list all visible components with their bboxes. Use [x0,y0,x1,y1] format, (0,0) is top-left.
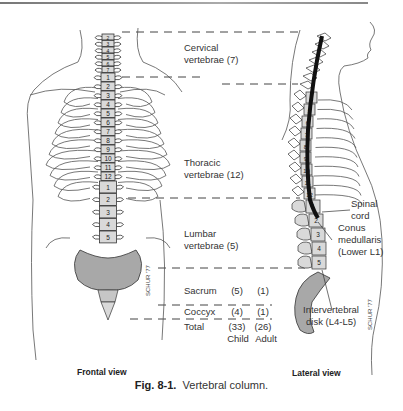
frontal-view-label: Frontal view [77,367,127,377]
leader-spinal-cord [322,210,350,212]
artist-signature-lateral: SCHUR '77 [367,299,373,330]
rib-right [118,87,152,106]
frontal-vertebra-number: 7 [106,128,110,135]
rib-left [50,161,98,180]
rib-right [118,119,161,138]
frontal-vertebra-number: 6 [106,119,110,126]
frontal-vertebra-cervical-5: 5 [95,54,121,61]
frontal-vertebra-number: 12 [104,173,112,180]
frontal-vertebra-lumbar-3: 3 [93,206,124,218]
cervical-label: Cervical vertebrae (7) [184,42,238,66]
frontal-vertebra-thoracic-4: 4 [94,100,122,108]
rib-right [118,150,170,169]
frontal-vertebra-number: 8 [106,137,110,144]
counts-row-sacrum: Sacrum(5)(1) [184,285,276,297]
frontal-vertebra-thoracic-9: 9 [94,145,122,153]
rib-left [58,182,98,201]
counts-row-coccyx: Coccyx(4)(1) [184,306,276,318]
frontal-spine: 23456712345678910111212345 [93,34,124,243]
frontal-vertebra-number: 1 [106,74,110,81]
rib-left [55,119,98,138]
frontal-vertebra-thoracic-12: 12 [94,172,122,180]
frontal-pelvis [46,238,170,320]
frontal-vertebra-number: 1 [106,184,110,191]
conus-medullaris-label: Conus medullaris (Lower L1) [338,222,383,258]
lumbar-label: Lumbar vertebrae (5) [184,228,238,252]
artist-signature-frontal: SCHUR '77 [145,265,151,296]
frontal-vertebra-number: 4 [107,48,110,54]
lateral-view-label: Lateral view [292,368,341,378]
frontal-vertebra-number: 4 [106,221,110,228]
frontal-vertebra-thoracic-10: 10 [94,154,122,162]
lateral-ribcage [313,100,362,205]
lateral-vertebra-lumbar-3: 3 [297,228,325,241]
frontal-vertebra-cervical-2: 2 [95,34,121,41]
lateral-vertebra-lumbar-4: 4 [298,242,326,255]
frontal-vertebra-number: 2 [106,83,110,90]
spinal-cord-label: Spinal cord [351,198,377,222]
caption-label: Fig. 8-1. [135,379,177,391]
frontal-vertebra-number: 3 [106,209,110,216]
lateral-rib [315,157,358,167]
lateral-vertebra-lumbar-5: 5 [298,256,326,269]
lateral-vertebra-cervical [317,33,331,41]
frontal-vertebra-number: 5 [106,234,110,241]
lateral-rib [316,138,356,148]
rib-right [118,171,162,190]
figure-caption: Fig. 8-1. Vertebral column. [0,379,403,391]
rib-right [118,129,164,148]
intervertebral-disk-label: Intervertebral disk (L4-L5) [303,304,359,328]
frontal-vertebra-number: 10 [104,155,112,162]
frontal-vertebra-number: 3 [106,92,110,99]
frontal-vertebra-number: 2 [107,35,110,41]
frontal-vertebra-lumbar-2: 2 [93,194,124,206]
frontal-vertebra-thoracic-5: 5 [94,109,122,117]
frontal-vertebra-thoracic-7: 7 [94,127,122,135]
rib-left [52,129,98,148]
frontal-vertebra-number: 5 [106,110,110,117]
lateral-rib [318,109,354,119]
frontal-vertebra-cervical-7: 7 [95,67,121,74]
lateral-rib [318,100,352,110]
frontal-vertebra-number: 11 [105,164,112,171]
rib-right [118,140,167,159]
counts-column-headers: ChildAdult [224,333,280,345]
frontal-vertebra-thoracic-1: 1 [94,73,122,81]
frontal-vertebra-cervical-4: 4 [95,47,121,54]
thoracic-label: Thoracic vertebrae (12) [184,157,244,181]
caption-text: Vertebral column. [183,379,269,391]
frontal-vertebra-thoracic-6: 6 [94,118,122,126]
rib-right [118,161,166,180]
frontal-vertebra-thoracic-11: 11 [94,163,122,171]
lateral-rib [314,176,360,186]
frontal-vertebra-thoracic-2: 2 [94,82,122,90]
lateral-rib [315,166,360,176]
rib-left [49,140,98,159]
rib-right [118,182,158,201]
frontal-vertebra-number: 5 [107,54,110,60]
frontal-vertebra-number: 7 [107,67,110,73]
rib-left [54,171,98,190]
lateral-spine: 45678910111212345 [288,33,331,269]
frontal-vertebra-number: 2 [106,196,110,203]
rib-right [118,108,158,127]
frontal-vertebra-number: 3 [107,41,110,47]
counts-row-total: Total(33)(26) [184,321,276,333]
frontal-vertebra-cervical-6: 6 [95,60,121,67]
frontal-vertebra-number: 6 [107,61,110,67]
frontal-vertebra-lumbar-4: 4 [93,219,124,231]
frontal-vertebra-number: 4 [106,101,110,108]
sacrum-shape [74,250,141,290]
frontal-vertebra-cervical-3: 3 [95,41,121,48]
lateral-vertebra-number: 5 [317,259,321,266]
frontal-vertebra-number: 9 [106,146,110,153]
lateral-vertebra-number: 4 [317,245,321,252]
coccyx-tip [101,302,115,320]
frontal-vertebra-thoracic-8: 8 [94,136,122,144]
coccyx-segment [98,290,118,302]
rib-left [61,98,98,117]
rib-right [118,98,155,117]
rib-left [58,108,98,127]
frontal-vertebra-thoracic-3: 3 [94,91,122,99]
rib-left [46,150,98,169]
